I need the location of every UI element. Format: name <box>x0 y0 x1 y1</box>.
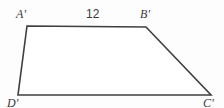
trapezoid-figure: A' B' C' D' 12 <box>0 0 224 108</box>
vertex-label-a-prime: A' <box>16 8 26 20</box>
vertex-label-c-prime: C' <box>203 97 214 108</box>
vertex-label-d-prime: D' <box>7 97 19 108</box>
side-length-label-ab: 12 <box>86 8 99 20</box>
trapezoid-outline <box>18 26 211 95</box>
vertex-label-b-prime: B' <box>140 8 150 20</box>
trapezoid-shape-svg <box>0 0 224 108</box>
